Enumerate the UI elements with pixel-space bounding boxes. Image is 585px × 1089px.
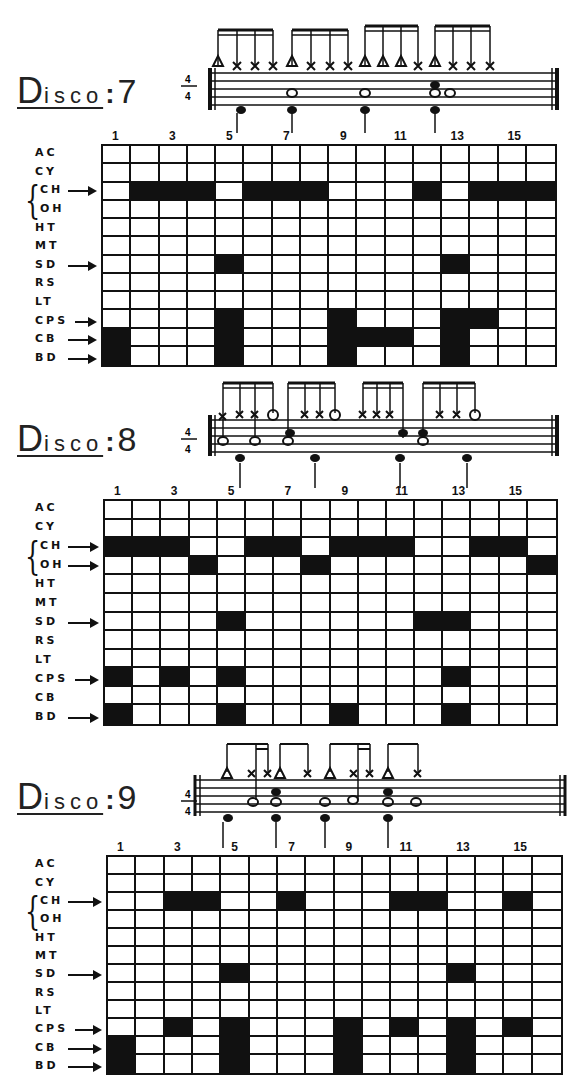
step-cell-ht-16[interactable]: [528, 575, 556, 594]
step-cell-ht-4[interactable]: [190, 575, 218, 594]
step-cell-bd-14[interactable]: [471, 705, 499, 724]
step-cell-cy-3[interactable]: [161, 520, 189, 539]
step-cell-cps-5[interactable]: [221, 1019, 249, 1037]
step-cell-cps-3[interactable]: [161, 668, 189, 687]
step-cell-mt-13[interactable]: [442, 237, 470, 255]
step-cell-ht-8[interactable]: [301, 219, 329, 237]
step-cell-cb-4[interactable]: [193, 1037, 221, 1055]
step-cell-sd-15[interactable]: [500, 613, 528, 632]
step-cell-lt-2[interactable]: [133, 650, 161, 669]
step-cell-cps-14[interactable]: [470, 310, 498, 328]
step-cell-oh-1[interactable]: [103, 201, 131, 219]
step-cell-cb-13[interactable]: [443, 687, 471, 706]
step-cell-ac-15[interactable]: [500, 501, 528, 520]
step-cell-lt-15[interactable]: [499, 292, 527, 310]
step-cell-cps-8[interactable]: [302, 668, 330, 687]
step-cell-rs-2[interactable]: [131, 274, 159, 292]
step-cell-cb-13[interactable]: [442, 329, 470, 347]
step-cell-cb-8[interactable]: [306, 1037, 334, 1055]
step-cell-bd-16[interactable]: [527, 347, 555, 365]
step-cell-cy-15[interactable]: [500, 520, 528, 539]
step-cell-bd-12[interactable]: [415, 705, 443, 724]
step-cell-sd-10[interactable]: [357, 256, 385, 274]
step-cell-ht-2[interactable]: [131, 219, 159, 237]
step-cell-mt-5[interactable]: [221, 947, 249, 965]
step-cell-ch-10[interactable]: [363, 893, 391, 911]
step-cell-ht-13[interactable]: [442, 219, 470, 237]
step-cell-bd-4[interactable]: [193, 1055, 221, 1073]
step-cell-ac-15[interactable]: [504, 857, 532, 875]
step-cell-cb-3[interactable]: [161, 687, 189, 706]
step-cell-mt-14[interactable]: [470, 237, 498, 255]
step-cell-rs-9[interactable]: [335, 983, 363, 1001]
step-cell-cb-16[interactable]: [533, 1037, 561, 1055]
step-cell-bd-8[interactable]: [306, 1055, 334, 1073]
step-cell-cps-1[interactable]: [108, 1019, 136, 1037]
step-cell-bd-15[interactable]: [504, 1055, 532, 1073]
step-cell-bd-7[interactable]: [274, 705, 302, 724]
step-cell-cy-6[interactable]: [250, 875, 278, 893]
step-cell-mt-1[interactable]: [105, 594, 133, 613]
step-cell-bd-13[interactable]: [442, 347, 470, 365]
step-cell-cps-6[interactable]: [250, 1019, 278, 1037]
step-cell-cps-6[interactable]: [244, 310, 272, 328]
step-cell-ch-10[interactable]: [359, 538, 387, 557]
step-cell-ch-4[interactable]: [190, 538, 218, 557]
step-cell-ac-16[interactable]: [527, 146, 555, 164]
step-cell-cy-7[interactable]: [278, 875, 306, 893]
step-cell-ht-7[interactable]: [274, 575, 302, 594]
step-cell-cps-10[interactable]: [359, 668, 387, 687]
step-cell-bd-16[interactable]: [533, 1055, 561, 1073]
step-cell-cps-5[interactable]: [218, 668, 246, 687]
step-cell-ht-12[interactable]: [414, 219, 442, 237]
step-cell-rs-10[interactable]: [357, 274, 385, 292]
step-cell-ht-1[interactable]: [108, 929, 136, 947]
step-cell-cy-1[interactable]: [108, 875, 136, 893]
step-cell-cps-9[interactable]: [329, 310, 357, 328]
step-cell-oh-2[interactable]: [131, 201, 159, 219]
step-cell-ht-2[interactable]: [133, 575, 161, 594]
step-cell-lt-6[interactable]: [246, 650, 274, 669]
step-cell-sd-3[interactable]: [160, 256, 188, 274]
step-cell-cy-16[interactable]: [528, 520, 556, 539]
step-cell-ht-10[interactable]: [357, 219, 385, 237]
step-cell-cy-16[interactable]: [527, 164, 555, 182]
step-cell-rs-11[interactable]: [386, 274, 414, 292]
step-cell-cb-9[interactable]: [329, 329, 357, 347]
step-cell-cy-5[interactable]: [221, 875, 249, 893]
step-cell-ht-14[interactable]: [476, 929, 504, 947]
step-cell-oh-4[interactable]: [188, 201, 216, 219]
step-cell-oh-12[interactable]: [414, 201, 442, 219]
step-cell-lt-9[interactable]: [331, 650, 359, 669]
step-cell-sd-1[interactable]: [103, 256, 131, 274]
step-cell-oh-4[interactable]: [190, 557, 218, 576]
step-cell-ac-2[interactable]: [133, 501, 161, 520]
step-cell-cb-3[interactable]: [165, 1037, 193, 1055]
step-cell-sd-13[interactable]: [442, 256, 470, 274]
step-cell-ch-11[interactable]: [387, 538, 415, 557]
step-cell-mt-1[interactable]: [108, 947, 136, 965]
step-cell-sd-9[interactable]: [329, 256, 357, 274]
step-cell-rs-12[interactable]: [415, 631, 443, 650]
step-cell-sd-4[interactable]: [193, 965, 221, 983]
step-cell-sd-12[interactable]: [419, 965, 447, 983]
step-cell-ch-5[interactable]: [218, 538, 246, 557]
step-cell-cy-10[interactable]: [357, 164, 385, 182]
step-cell-cb-9[interactable]: [335, 1037, 363, 1055]
step-cell-lt-14[interactable]: [470, 292, 498, 310]
step-cell-rs-3[interactable]: [161, 631, 189, 650]
step-cell-cb-15[interactable]: [499, 329, 527, 347]
step-cell-cps-2[interactable]: [133, 668, 161, 687]
step-cell-cb-14[interactable]: [471, 687, 499, 706]
step-cell-cy-13[interactable]: [448, 875, 476, 893]
step-cell-ac-8[interactable]: [306, 857, 334, 875]
step-cell-cb-2[interactable]: [136, 1037, 164, 1055]
step-cell-lt-6[interactable]: [244, 292, 272, 310]
step-cell-ch-8[interactable]: [306, 893, 334, 911]
step-cell-cps-16[interactable]: [528, 668, 556, 687]
step-cell-mt-15[interactable]: [499, 237, 527, 255]
step-cell-cb-11[interactable]: [391, 1037, 419, 1055]
step-cell-ht-13[interactable]: [448, 929, 476, 947]
step-cell-cb-7[interactable]: [273, 329, 301, 347]
step-cell-cy-3[interactable]: [160, 164, 188, 182]
